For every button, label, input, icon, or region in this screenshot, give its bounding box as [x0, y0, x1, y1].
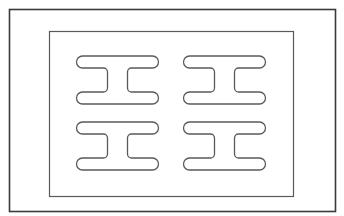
i-beam-shape-top-left: [77, 56, 159, 104]
outer-frame: [10, 10, 336, 212]
diagram-canvas: [0, 0, 344, 216]
i-beam-shape-top-right: [184, 56, 266, 104]
i-beam-shape-bottom-left: [77, 122, 159, 170]
i-beam-shape-bottom-right: [184, 122, 266, 170]
